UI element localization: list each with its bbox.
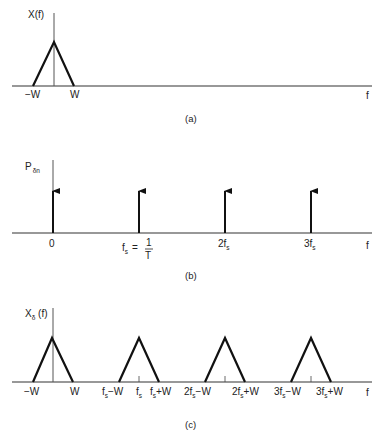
panel-b-tick-2fs: 2fs [218, 238, 230, 251]
panel-c-tick-3fs-minus-w: 3fs−W [274, 386, 301, 399]
panel-c-tick-fs-minus-w: fs−W [102, 386, 124, 399]
panel-c-tick-2fs-minus-w: 2fs−W [184, 386, 211, 399]
panel-c-xlabel: f [366, 387, 369, 398]
panel-c-ylabel: Xδ (f) [25, 308, 48, 321]
panel-c-tick-neg-w: −W [24, 386, 40, 397]
panel-a-xlabel: f [366, 90, 369, 101]
panel-c-tick-fs: fs [136, 386, 143, 399]
panel-b-tick-3fs: 3fs [304, 238, 316, 251]
spectrum-copy-3fs [291, 338, 331, 382]
panel-b-tick-0: 0 [49, 238, 55, 249]
panel-a-tick-neg-w: −W [25, 89, 41, 100]
panel-a: X(f) −W W f (a) [12, 9, 372, 124]
spectrum-copy-2fs [205, 338, 245, 382]
panel-b-ylabel: Pδn [25, 161, 40, 174]
spectrum-copy-fs [119, 338, 159, 382]
panel-b-caption: (b) [185, 270, 197, 281]
panel-b-tick-1-over-t-den: T [145, 250, 151, 261]
panel-b: Pδn 0 fs= 1 T 2fs 3fs f (b) [12, 160, 372, 281]
panel-b-tick-fs: fs= [122, 242, 138, 255]
panel-a-tick-w: W [70, 89, 80, 100]
panel-c: Xδ (f) −W W fs−W fs fs+W 2fs−W 2fs+W 3fs… [12, 308, 372, 430]
panel-a-caption: (a) [185, 113, 197, 124]
panel-c-tick-w: W [70, 386, 80, 397]
panel-c-tick-3fs-plus-w: 3fs+W [316, 386, 343, 399]
panel-c-tick-fs-plus-w: fs+W [150, 386, 172, 399]
sampling-spectrum-figure: X(f) −W W f (a) Pδn 0 fs= 1 T 2fs 3fs f … [0, 0, 382, 440]
panel-b-xlabel: f [366, 240, 369, 251]
panel-b-tick-1-over-t-num: 1 [146, 237, 152, 248]
panel-a-ylabel: X(f) [28, 9, 44, 20]
panel-c-tick-2fs-plus-w: 2fs+W [232, 386, 259, 399]
panel-c-caption: (c) [185, 419, 196, 430]
